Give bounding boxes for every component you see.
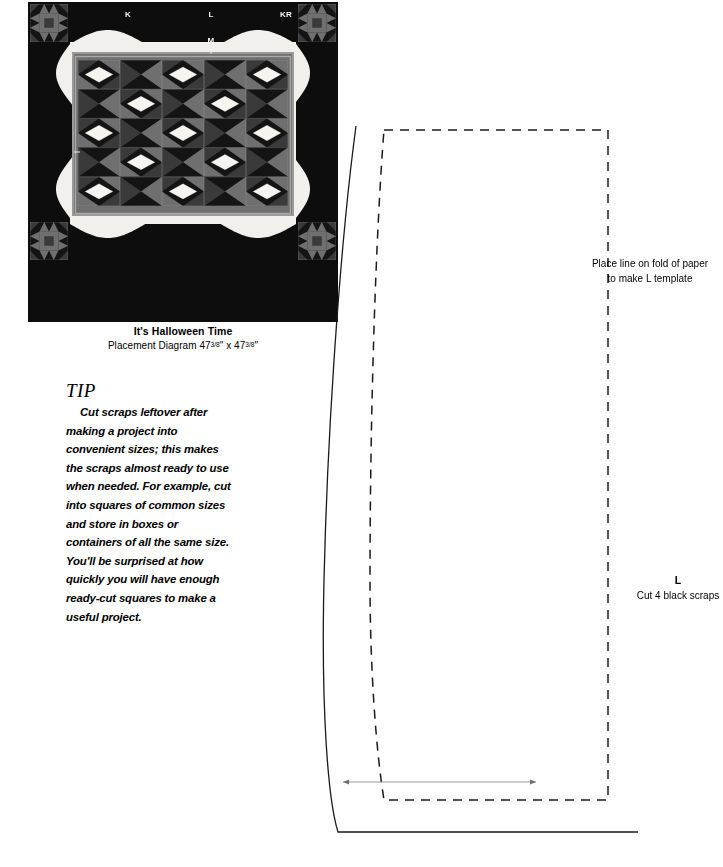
fold-note-line-2: to make L template bbox=[540, 272, 723, 287]
template-outline-svg bbox=[188, 110, 638, 860]
quilt-label-kr: KR bbox=[274, 10, 298, 19]
template-label-l: L bbox=[588, 573, 723, 587]
template-cut-line bbox=[323, 126, 638, 832]
quilt-label-k: K bbox=[116, 10, 140, 19]
fold-note-line-1: Place line on fold of paper bbox=[540, 257, 723, 272]
l-template-figure: Place line on fold of paper to make L te… bbox=[188, 110, 638, 860]
template-seam-line bbox=[370, 130, 608, 800]
grainline-arrow bbox=[343, 779, 536, 784]
quilt-label-l: L bbox=[199, 10, 223, 19]
fold-line-note: Place line on fold of paper to make L te… bbox=[540, 257, 723, 286]
quilt-label-m: M bbox=[199, 36, 223, 45]
template-cut-instruction: Cut 4 black scraps bbox=[588, 589, 723, 603]
